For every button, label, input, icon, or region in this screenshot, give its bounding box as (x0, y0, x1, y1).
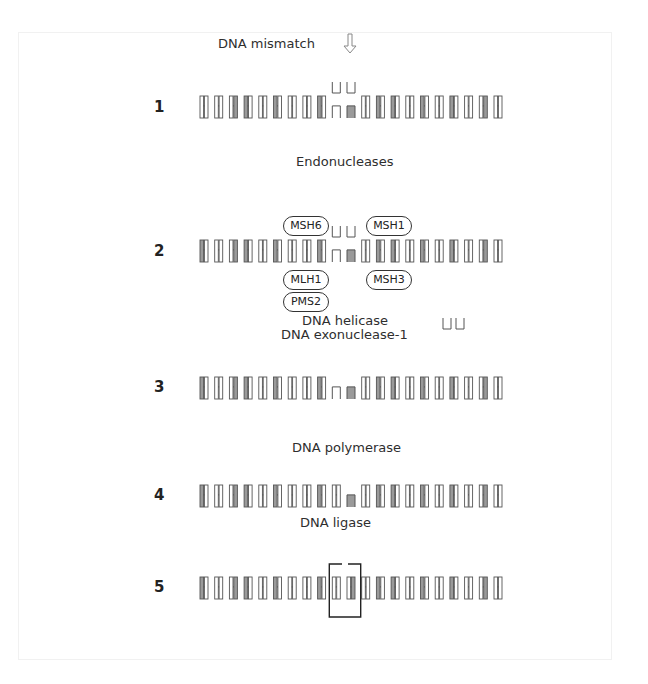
strand-right (249, 577, 253, 599)
base-pair (435, 577, 443, 599)
strand-left (200, 485, 204, 507)
strand-right (204, 577, 208, 599)
strand-left (215, 240, 219, 262)
strand-right (396, 485, 400, 507)
dna-strand-step-5 (200, 577, 502, 599)
base-pair (303, 577, 311, 599)
mismatch-base-top (347, 82, 355, 93)
strand-left (421, 240, 425, 262)
strand-right (484, 240, 488, 262)
strand-left (288, 377, 292, 399)
base-pair (274, 96, 282, 118)
strand-right (396, 240, 400, 262)
base-pair (421, 577, 429, 599)
strand-right (278, 377, 282, 399)
base-pair (450, 96, 458, 118)
strand-left (347, 577, 351, 599)
strand-right (425, 240, 429, 262)
strand-right (234, 377, 238, 399)
strand-right (322, 240, 326, 262)
strand-left (318, 577, 322, 599)
strand-left (362, 96, 366, 118)
base-pair (200, 485, 208, 507)
strand-left (391, 577, 395, 599)
strand-left (421, 377, 425, 399)
base-pair (406, 377, 414, 399)
strand-right (204, 377, 208, 399)
strand-right (381, 577, 385, 599)
strand-right (425, 377, 429, 399)
base-pair (259, 240, 267, 262)
mismatch-base-bottom (347, 106, 355, 118)
dna-strand-step-1 (200, 82, 502, 118)
strand-right (396, 96, 400, 118)
base-pair (465, 485, 473, 507)
strand-left (494, 577, 498, 599)
strand-left (274, 577, 278, 599)
base-pair (259, 577, 267, 599)
strand-left (259, 96, 263, 118)
strand-left (303, 96, 307, 118)
base-pair (200, 377, 208, 399)
strand-right (278, 577, 282, 599)
strand-right (263, 240, 267, 262)
strand-right (484, 577, 488, 599)
base-pair (259, 377, 267, 399)
strand-left (215, 485, 219, 507)
strand-left (465, 240, 469, 262)
base-pair (376, 485, 384, 507)
strand-left (391, 240, 395, 262)
strand-left (215, 577, 219, 599)
strand-right (498, 96, 502, 118)
strand-right (219, 377, 223, 399)
strand-left (259, 577, 263, 599)
base-pair (244, 577, 252, 599)
base-pair (215, 377, 223, 399)
strand-left (465, 485, 469, 507)
strand-right (454, 377, 458, 399)
base-pair (259, 485, 267, 507)
base-pair (391, 240, 399, 262)
strand-right (307, 96, 311, 118)
strand-left (435, 240, 439, 262)
base-pair (288, 240, 296, 262)
strand-left (376, 96, 380, 118)
strand-left (465, 377, 469, 399)
base-pair (288, 485, 296, 507)
strand-right (293, 577, 297, 599)
strand-right (410, 485, 414, 507)
strand-left (288, 240, 292, 262)
base-pair (421, 240, 429, 262)
strand-right (440, 96, 444, 118)
base-pair (376, 577, 384, 599)
excised-fragments (443, 318, 464, 329)
strand-left (303, 485, 307, 507)
strand-right (219, 577, 223, 599)
strand-right (307, 485, 311, 507)
strand-left (259, 485, 263, 507)
repaired-base-pair (347, 577, 355, 599)
strand-right (322, 377, 326, 399)
gap-base (347, 495, 355, 507)
base-pair (406, 577, 414, 599)
bottom-strand-fragment (332, 387, 340, 399)
mismatch-base-top (332, 82, 340, 93)
base-pair (318, 577, 326, 599)
strand-right (440, 485, 444, 507)
strand-right (469, 240, 473, 262)
base-pair (450, 240, 458, 262)
strand-right (351, 577, 355, 599)
strand-left (200, 577, 204, 599)
strand-left (435, 485, 439, 507)
strand-left (362, 377, 366, 399)
base-pair (288, 377, 296, 399)
base-pair (435, 96, 443, 118)
base-pair (421, 377, 429, 399)
base-pair (494, 377, 502, 399)
base-pair (274, 377, 282, 399)
mismatch-base-top (332, 226, 340, 237)
strand-left (479, 377, 483, 399)
strand-left (215, 96, 219, 118)
strand-left (391, 485, 395, 507)
strand-left (406, 96, 410, 118)
